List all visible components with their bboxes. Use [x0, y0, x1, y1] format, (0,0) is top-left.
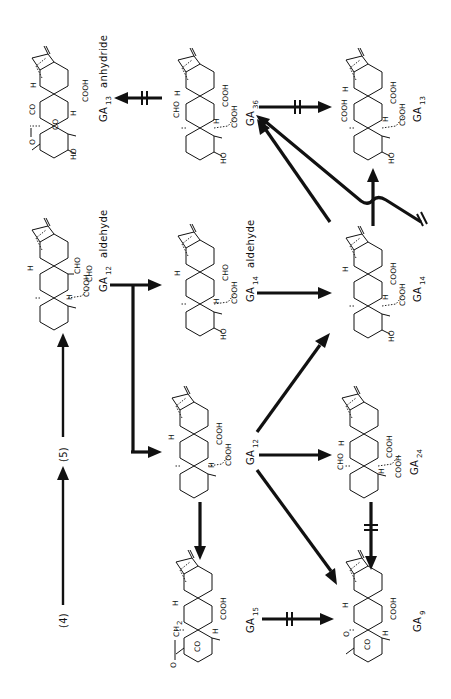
ga14-cooh-1: COOH: [389, 262, 398, 285]
ga13-anhydride-o: O: [28, 139, 37, 145]
ga14-aldehyde-cho: CHO: [221, 264, 230, 281]
ga36-cooh-1: COOH: [221, 84, 230, 107]
ga36-h2: H: [212, 118, 221, 124]
ga12-h2: H: [207, 462, 216, 468]
arrow-ga12-to-ga24: [259, 449, 332, 461]
svg-text:GA: GA: [245, 287, 256, 302]
arrow-ga14-aldehyde-to-ga14: [257, 287, 332, 299]
ga14-h1: H: [341, 266, 350, 272]
label-ga13: GA 13: [412, 96, 427, 122]
arrow-ga12-to-ga9: [257, 470, 337, 585]
ga36-ho: HO: [219, 152, 228, 164]
ga24-h2: H: [377, 468, 386, 474]
svg-text:36: 36: [252, 100, 260, 109]
arrow-p4-to-p5: [57, 466, 69, 605]
ga12-h1: H: [167, 434, 176, 440]
arrow-p5-to-ga12-aldehyde: [57, 333, 69, 437]
ga14-aldehyde-h2: H: [212, 298, 221, 304]
ga15-ch2: CH 2: [172, 621, 184, 637]
ga24-cooh-2: COOH: [394, 455, 403, 478]
ga14-aldehyde-ho: HO: [219, 328, 228, 340]
svg-text:aldehyde: aldehyde: [245, 219, 256, 268]
ga13-h1: H: [341, 86, 350, 92]
ga9-co: CO: [363, 639, 372, 650]
svg-text:15: 15: [252, 607, 260, 616]
arrow-ga36-to-ga13-blocked: [259, 100, 332, 114]
ga9-h2: H: [381, 630, 390, 636]
svg-text:GA: GA: [409, 460, 420, 475]
ga15-h1: H: [171, 600, 180, 606]
svg-text:9: 9: [419, 611, 427, 615]
precursor-5-label: (5): [58, 447, 69, 462]
arrow-ga24-to-ga9-blocked: [364, 502, 378, 570]
svg-text:GA: GA: [412, 287, 423, 302]
ga15-cooh: COOH: [219, 597, 228, 620]
ga12-aldehyde-h2: H: [65, 294, 74, 300]
pathway-diagram: (4) (5) CHO CHO COOH H H GA 12 aldehyde …: [0, 0, 451, 699]
ga9-cooh: COOH: [389, 597, 398, 620]
svg-text:GA: GA: [98, 107, 109, 122]
ga12-cooh-1: COOH: [215, 422, 224, 445]
ga14-aldehyde-cooh: COOH: [230, 281, 239, 304]
svg-text:13: 13: [105, 96, 113, 105]
arrow-ga12-to-ga14: [257, 333, 330, 432]
ga13-anhydride-cooh: COOH: [81, 79, 90, 102]
ga13-cooh-1: COOH: [340, 99, 349, 122]
arrow-ga12-aldehyde-branch: [110, 279, 162, 458]
svg-text:14: 14: [252, 276, 260, 285]
ga36-cooh-2: COOH: [230, 105, 239, 128]
ga9-o: O: [342, 631, 351, 637]
ga24-h1: H: [337, 440, 346, 446]
ga12-cooh-2: COOH: [224, 443, 233, 466]
arrow-ga14-to-ga36: [257, 119, 330, 222]
ga13-anhydride-co-2: CO: [51, 119, 60, 130]
svg-text:GA: GA: [245, 111, 256, 126]
svg-text:2: 2: [176, 621, 184, 625]
svg-text:CH: CH: [172, 626, 181, 637]
label-ga12-aldehyde: GA 12 aldehyde: [98, 209, 113, 292]
svg-text:GA: GA: [245, 450, 256, 465]
ga12-aldehyde-cooh: COOH: [82, 274, 91, 297]
svg-text:12: 12: [105, 266, 113, 275]
ga13-cooh-3: COOH: [398, 103, 407, 126]
ga24-cho: CHO: [336, 453, 345, 470]
structure-ga12-aldehyde: CHO: [32, 218, 94, 330]
ga13-ho: HO: [387, 152, 396, 164]
label-ga14-aldehyde: GA 14 aldehyde: [245, 219, 260, 302]
svg-text:anhydride: anhydride: [98, 35, 109, 88]
ga13-cooh-2: COOH: [389, 81, 398, 104]
arrow-external-to-ga36-blocked: [256, 115, 427, 226]
svg-text:14: 14: [419, 276, 427, 285]
svg-text:GA: GA: [412, 107, 423, 122]
ga12-aldehyde-cho: CHO: [73, 257, 82, 274]
ga14-cooh-2: COOH: [398, 283, 407, 306]
label-ga14: GA 14: [412, 276, 427, 302]
label-ga13-anhydride: GA 13 anhydride: [98, 35, 113, 122]
ga14-ho: HO: [387, 330, 396, 342]
ga15-co: CO: [193, 641, 202, 652]
ga15-h2: H: [211, 628, 220, 634]
ga13-anhydride-ho: HO: [69, 148, 78, 160]
precursor-4-label: (4): [58, 613, 69, 628]
svg-text:GA: GA: [412, 617, 423, 632]
ga13-h2: H: [381, 116, 390, 122]
ga13-anhydride-h1: H: [29, 82, 38, 88]
ga24-cooh-1: COOH: [385, 435, 394, 458]
label-ga12: GA 12: [245, 439, 260, 465]
label-ga24: GA 24: [409, 449, 424, 475]
ga14-aldehyde-h1: H: [173, 270, 182, 276]
arrow-ga12-to-ga15: [194, 502, 206, 560]
svg-text:aldehyde: aldehyde: [98, 209, 109, 258]
svg-text:24: 24: [416, 449, 424, 458]
svg-text:13: 13: [419, 96, 427, 105]
label-ga9: GA 9: [412, 611, 427, 632]
svg-text:GA: GA: [98, 277, 109, 292]
arrow-ga15-to-ga9-blocked: [262, 612, 334, 626]
ga13-anhydride-co-1: CO: [28, 104, 37, 115]
arrow-ga36-to-ga13-anhydride-blocked: [114, 91, 162, 105]
svg-text:12: 12: [252, 439, 260, 448]
ga36-cho: CHO: [172, 101, 181, 118]
ga12-aldehyde-h1: H: [26, 265, 35, 271]
ga13-anhydride-h2: H: [69, 110, 78, 116]
label-ga15: GA 15: [245, 607, 260, 633]
